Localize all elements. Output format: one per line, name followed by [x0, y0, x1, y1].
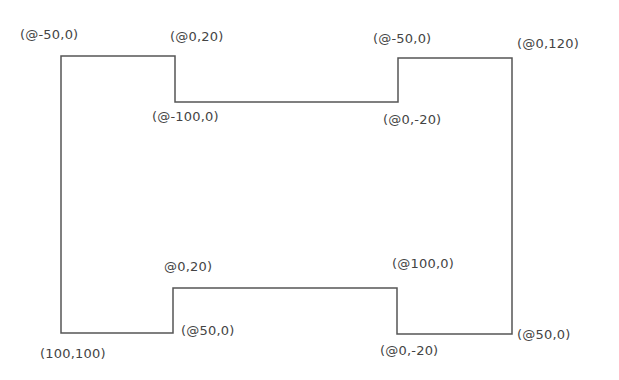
label-top-notch-left: (@0,20) [170, 29, 224, 44]
closed-polyline-shape [61, 56, 512, 334]
label-bottom-notch-right: (@100,0) [392, 256, 454, 271]
label-top-notch-right: (@-50,0) [373, 31, 431, 46]
label-bottom-notch-corner-right: (@0,-20) [380, 343, 438, 358]
label-bottom-notch-left: @0,20) [164, 259, 212, 274]
label-bottom-notch-corner-left: (@50,0) [181, 323, 235, 338]
label-bottom-left-start: (100,100) [40, 346, 106, 361]
label-bottom-right: (@50,0) [517, 327, 571, 342]
label-top-notch-bottom-right: (@0,-20) [383, 112, 441, 127]
label-top-notch-bottom-left: (@-100,0) [152, 109, 219, 124]
label-top-right: (@0,120) [517, 36, 579, 51]
polyline-diagram [0, 0, 619, 380]
label-start-top-left: (@-50,0) [20, 27, 78, 42]
